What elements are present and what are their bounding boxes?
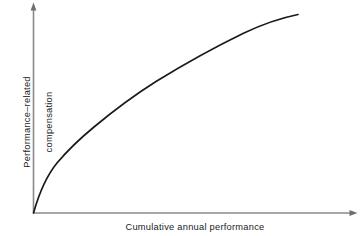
performance-compensation-curve: [34, 15, 299, 214]
y-axis-label-line-2: compensation: [44, 92, 54, 153]
y-axis-label-line-1: Performance–related: [22, 76, 32, 168]
y-axis-arrow-icon: [31, 3, 37, 11]
chart-plot-area: Cumulative annual performance Performanc…: [0, 0, 364, 236]
chart-container: Cumulative annual performance Performanc…: [0, 0, 364, 236]
x-axis-label: Cumulative annual performance: [125, 222, 264, 232]
x-axis-arrow-icon: [350, 210, 358, 216]
